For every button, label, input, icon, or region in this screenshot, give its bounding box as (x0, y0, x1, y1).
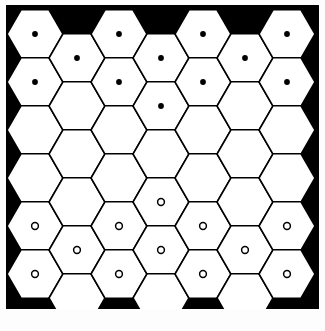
filled-dot-marker-icon (284, 79, 290, 85)
filled-dot-marker-icon (32, 79, 38, 85)
caption-strip (0, 318, 325, 331)
hexagon-cells-group (7, 10, 315, 309)
filled-dot-marker-icon (32, 31, 38, 37)
filled-dot-marker-icon (284, 31, 290, 37)
filled-dot-marker-icon (116, 31, 122, 37)
hexagon-lattice-svg (6, 5, 319, 309)
filled-dot-marker-icon (158, 55, 164, 61)
filled-dot-marker-icon (158, 103, 164, 109)
filled-dot-marker-icon (200, 31, 206, 37)
filled-dot-marker-icon (74, 55, 80, 61)
hexagon-lattice-panel (6, 5, 319, 309)
figure-root (0, 0, 325, 331)
filled-dot-marker-icon (242, 55, 248, 61)
filled-dot-marker-icon (116, 79, 122, 85)
filled-dot-marker-icon (200, 79, 206, 85)
